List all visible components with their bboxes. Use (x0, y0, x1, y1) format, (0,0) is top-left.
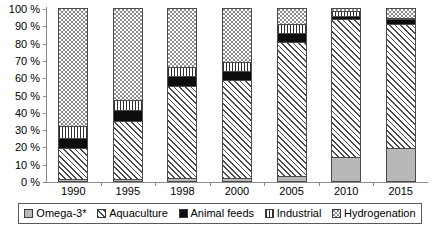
x-axis-label-2010: 2010 (316, 185, 376, 198)
legend-item-omega3: Omega-3* (24, 208, 86, 219)
legend-label: Industrial (277, 208, 322, 219)
legend-label: Omega-3* (36, 208, 86, 219)
bar-segment-hydrogenation (114, 9, 142, 100)
bar-segment-industrial (278, 24, 306, 33)
bar-segment-aquaculture (387, 24, 415, 148)
bar-segment-omega3 (278, 176, 306, 181)
bar-segment-omega3 (59, 179, 87, 181)
legend-swatch-industrial (265, 209, 274, 218)
bar-segment-omega3 (387, 148, 415, 181)
bar-segment-animalfeeds (59, 138, 87, 148)
y-axis-label: 80 % (15, 38, 40, 49)
bar-segment-animalfeeds (223, 71, 251, 80)
bar-segment-omega3 (168, 178, 196, 181)
x-axis-label-1998: 1998 (152, 185, 212, 198)
bar-segment-animalfeeds (168, 76, 196, 86)
legend-label: Aquaculture (109, 208, 168, 219)
bar-segment-aquaculture (278, 42, 306, 176)
y-axis-label: 60 % (15, 73, 40, 84)
bar-2010 (331, 8, 361, 182)
legend-swatch-hydrogenation (332, 209, 341, 218)
y-axis-label: 20 % (15, 142, 40, 153)
x-axis-label-1990: 1990 (43, 185, 103, 198)
legend-swatch-aquaculture (97, 209, 106, 218)
bar-segment-industrial (59, 126, 87, 138)
bar-segment-industrial (223, 62, 251, 71)
bar-segment-animalfeeds (278, 33, 306, 42)
bar-segment-hydrogenation (278, 9, 306, 24)
y-axis-label: 100 % (9, 4, 40, 15)
y-axis-label: 90 % (15, 21, 40, 32)
chart-legend: Omega-3*AquacultureAnimal feedsIndustria… (18, 203, 422, 224)
bar-segment-hydrogenation (223, 9, 251, 62)
y-axis-label: 70 % (15, 55, 40, 66)
caption-strip (0, 228, 438, 237)
bar-segment-hydrogenation (59, 9, 87, 126)
bar-segment-aquaculture (223, 80, 251, 178)
bar-segment-industrial (114, 100, 142, 110)
bar-segment-aquaculture (59, 148, 87, 179)
bar-segment-hydrogenation (168, 9, 196, 67)
bar-2000 (222, 8, 252, 182)
legend-item-hydrogenation: Hydrogenation (332, 208, 416, 219)
legend-item-industrial: Industrial (265, 208, 322, 219)
y-axis-label: 50 % (15, 90, 40, 101)
x-axis-tick-labels: 1990199519982000200520102015 (46, 185, 428, 201)
legend-item-aquaculture: Aquaculture (97, 208, 168, 219)
bar-segment-aquaculture (114, 121, 142, 179)
bar-segment-animalfeeds (114, 110, 142, 120)
bar-segment-hydrogenation (387, 9, 415, 18)
y-axis-label: 40 % (15, 107, 40, 118)
bar-1998 (167, 8, 197, 182)
bar-segment-omega3 (332, 157, 360, 181)
bar-group (46, 0, 428, 195)
y-axis-label: 10 % (15, 159, 40, 170)
y-axis-label: 30 % (15, 125, 40, 136)
bar-2015 (386, 8, 416, 182)
x-axis-label-2005: 2005 (262, 185, 322, 198)
x-axis-label-1995: 1995 (98, 185, 158, 198)
bar-2005 (277, 8, 307, 182)
bar-1990 (58, 8, 88, 182)
bar-segment-omega3 (114, 179, 142, 181)
legend-label: Hydrogenation (344, 208, 416, 219)
bar-segment-industrial (168, 67, 196, 76)
bar-segment-aquaculture (332, 19, 360, 157)
bar-1995 (113, 8, 143, 182)
legend-swatch-omega3 (24, 209, 33, 218)
bar-segment-omega3 (223, 178, 251, 181)
stacked-bar-chart: 0 %10 %20 %30 %40 %50 %60 %70 %80 %90 %1… (0, 0, 438, 237)
legend-label: Animal feeds (191, 208, 255, 219)
plot-area: 0 %10 %20 %30 %40 %50 %60 %70 %80 %90 %1… (0, 0, 438, 195)
x-axis-label-2015: 2015 (371, 185, 431, 198)
legend-item-animalfeeds: Animal feeds (179, 208, 255, 219)
x-axis-label-2000: 2000 (207, 185, 267, 198)
y-axis-label: 0 % (21, 177, 40, 188)
y-axis-tick-labels: 0 %10 %20 %30 %40 %50 %60 %70 %80 %90 %1… (0, 0, 44, 195)
legend-swatch-animalfeeds (179, 209, 188, 218)
bar-segment-aquaculture (168, 86, 196, 177)
